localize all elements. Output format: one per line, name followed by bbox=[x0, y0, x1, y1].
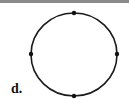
point-top bbox=[72, 11, 76, 15]
figure-label: d. bbox=[11, 82, 22, 96]
point-bottom bbox=[72, 94, 76, 98]
point-left bbox=[29, 52, 33, 56]
point-right bbox=[115, 52, 119, 56]
circle-outline bbox=[31, 13, 117, 96]
